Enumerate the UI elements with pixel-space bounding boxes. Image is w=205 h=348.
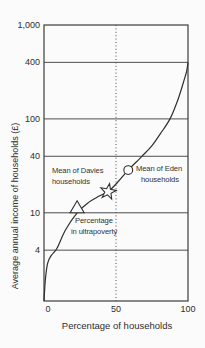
eden-mean-circle-marker <box>124 166 133 175</box>
annotation-ultrapoverty-line2: in ultrapoverty <box>71 226 117 237</box>
annotation-ultrapoverty: Percentage in ultrapoverty <box>71 215 117 237</box>
y-tick-label-100: 100 <box>0 114 40 124</box>
income-distribution-chart: Average annual income of households (£) … <box>0 0 205 348</box>
y-axis-title: Average annual income of households (£) <box>10 123 20 289</box>
y-tick-label-400: 400 <box>0 57 40 67</box>
y-tick-label-4: 4 <box>0 245 40 255</box>
annotation-eden-line2: households <box>141 174 179 185</box>
x-tick-label-0: 0 <box>45 304 50 314</box>
annotation-ultrapoverty-line1: Percentage <box>75 215 113 226</box>
ultrapoverty-triangle-marker <box>70 201 84 213</box>
x-axis-title: Percentage of households <box>62 320 172 331</box>
y-tick-label-40: 40 <box>0 151 40 161</box>
annotation-davies-mean: Mean of Davies households <box>52 165 103 187</box>
annotation-eden-mean: Mean of Eden households <box>136 163 182 185</box>
annotation-davies-line1: Mean of Davies <box>52 165 103 176</box>
x-tick-label-100: 100 <box>180 304 195 314</box>
y-tick-label-10: 10 <box>0 208 40 218</box>
annotation-eden-line1: Mean of Eden <box>136 163 182 174</box>
y-tick-label-1000: 1,000 <box>0 20 40 30</box>
annotation-davies-line2: households <box>52 176 90 187</box>
x-tick-label-50: 50 <box>111 304 121 314</box>
